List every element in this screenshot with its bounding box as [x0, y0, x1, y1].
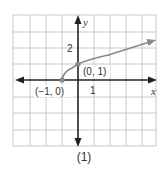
- point-neg1-0: [59, 77, 64, 82]
- x-axis-label: x: [150, 85, 156, 97]
- axes: [15, 15, 157, 147]
- y-axis-label: y: [82, 16, 88, 28]
- point-label-0-1: (0, 1): [83, 66, 106, 77]
- curve-arrow-icon: [147, 39, 157, 46]
- point-0-1: [75, 61, 80, 66]
- y-tick-label-2: 2: [67, 43, 73, 54]
- figure-caption: (1): [0, 150, 168, 164]
- x-tick-label-1: 1: [90, 85, 96, 96]
- graph-figure: y x 2 1 (0, 1) (−1, 0) (1): [0, 0, 168, 177]
- x-axis-left-arrow-icon: [15, 77, 24, 84]
- y-axis-up-arrow-icon: [75, 15, 82, 24]
- point-label-neg1-0: (−1, 0): [35, 86, 64, 97]
